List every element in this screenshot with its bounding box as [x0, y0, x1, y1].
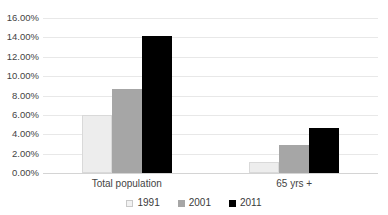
gridline [43, 173, 378, 174]
y-axis-tick-label: 4.00% [0, 129, 39, 139]
legend-item-2001[interactable]: 2001 [178, 197, 211, 209]
legend-item-label: 2001 [189, 197, 211, 209]
plot-area [43, 18, 378, 173]
legend-item-label: 2011 [240, 197, 262, 209]
y-axis-tick-label: 8.00% [0, 91, 39, 101]
y-axis-tick-label: 0.00% [0, 168, 39, 178]
gridline [43, 57, 378, 58]
legend-swatch-icon [178, 200, 185, 207]
y-axis-tick-label: 14.00% [0, 32, 39, 42]
gridline [43, 37, 378, 38]
bar-2011-total-population [142, 36, 172, 173]
x-axis-category-label: 65 yrs + [214, 178, 374, 190]
y-axis-tick-label: 16.00% [0, 13, 39, 23]
x-axis-category-label: Total population [47, 178, 207, 190]
y-axis-tick-label: 12.00% [0, 52, 39, 62]
bar-2001-65-yrs-plus [279, 145, 309, 173]
gridline [43, 76, 378, 77]
gridline [43, 96, 378, 97]
y-axis-tick-label: 10.00% [0, 71, 39, 81]
chart-legend: 199120012011 [0, 197, 388, 209]
y-axis-tick-label: 2.00% [0, 149, 39, 159]
legend-item-1991[interactable]: 1991 [126, 197, 159, 209]
legend-swatch-icon [229, 200, 236, 207]
chart-title [44, 0, 344, 3]
gridline [43, 18, 378, 19]
legend-item-2011[interactable]: 2011 [229, 197, 262, 209]
y-axis-tick-label: 6.00% [0, 110, 39, 120]
legend-swatch-icon [126, 200, 133, 207]
bar-2001-total-population [112, 89, 142, 173]
bar-2011-65-yrs-plus [309, 128, 339, 173]
bar-1991-65-yrs-plus [249, 162, 279, 173]
legend-item-label: 1991 [137, 197, 159, 209]
bar-1991-total-population [82, 115, 112, 173]
